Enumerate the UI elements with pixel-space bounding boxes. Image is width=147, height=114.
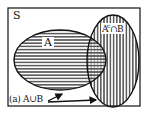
label-rest: ∩B <box>110 24 123 34</box>
union-caption: (a) A∪B <box>9 95 43 104</box>
set-a-label: A <box>42 37 54 48</box>
complement-a-intersect-b-label: Ac∩B <box>101 23 124 34</box>
arrow-to-b <box>48 100 96 102</box>
universe-label: S <box>13 10 21 21</box>
arrow-to-a <box>48 94 62 101</box>
